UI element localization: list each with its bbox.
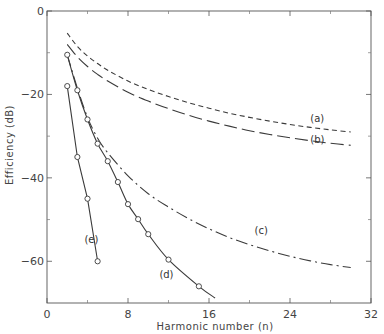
data-point-marker-d (65, 52, 70, 57)
data-point-marker-d (136, 217, 141, 222)
curve-label-a: (a) (310, 113, 324, 124)
plot-curves (65, 33, 351, 298)
data-point-marker-d (115, 179, 120, 184)
y-tick-label: −60 (21, 255, 44, 268)
curve-label-e: (e) (84, 234, 98, 245)
y-tick-label: −20 (21, 88, 44, 101)
curve-label-c: (c) (255, 225, 268, 236)
data-point-marker-d (166, 257, 171, 262)
x-tick-label: 8 (125, 308, 132, 321)
efficiency-chart: 081624320−20−40−60Harmonic number (n)Eff… (0, 0, 384, 334)
data-point-marker-e (65, 83, 70, 88)
plot-axes: 081624320−20−40−60Harmonic number (n)Eff… (4, 5, 378, 332)
data-point-marker-d (85, 117, 90, 122)
data-point-marker-d (75, 88, 80, 93)
curve-label-d: (d) (159, 269, 173, 280)
curve-d (67, 55, 215, 298)
curve-b (67, 44, 351, 145)
y-axis-title: Efficiency (dB) (4, 105, 15, 185)
x-tick-label: 32 (364, 308, 378, 321)
data-point-marker-e (85, 196, 90, 201)
data-point-marker-d (125, 202, 130, 207)
x-tick-label: 24 (283, 308, 297, 321)
y-tick-label: 0 (37, 5, 44, 18)
x-axis-title: Harmonic number (n) (156, 321, 273, 332)
curve-label-b: (b) (310, 134, 324, 145)
data-point-marker-e (75, 154, 80, 159)
y-tick-label: −40 (21, 172, 44, 185)
data-point-marker-d (196, 284, 201, 289)
x-tick-label: 16 (202, 308, 216, 321)
data-point-marker-d (146, 232, 151, 237)
data-point-marker-d (105, 159, 110, 164)
x-tick-label: 0 (44, 308, 51, 321)
data-point-marker-d (95, 141, 100, 146)
data-point-marker-e (95, 259, 100, 264)
